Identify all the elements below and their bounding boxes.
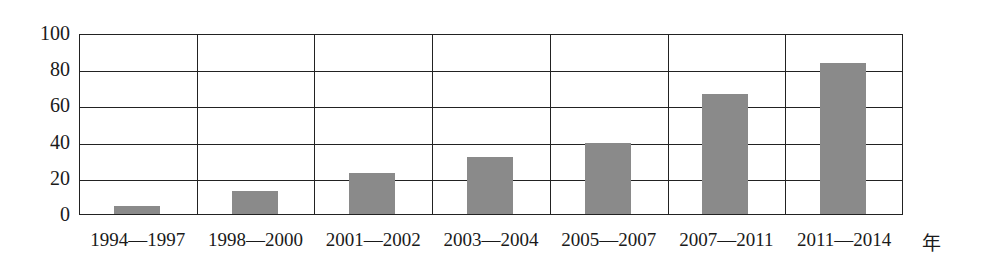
v-gridline — [314, 35, 315, 214]
v-gridline — [432, 35, 433, 214]
bar — [467, 157, 513, 214]
v-gridline — [197, 35, 198, 214]
h-gridline — [80, 107, 902, 108]
v-gridline — [550, 35, 551, 214]
h-gridline — [80, 71, 902, 72]
x-tick-label: 1994—1997 — [79, 229, 197, 251]
bar — [585, 143, 631, 214]
x-tick-label: 2005—2007 — [550, 229, 668, 251]
x-tick-label: 2001—2002 — [314, 229, 432, 251]
v-gridline — [785, 35, 786, 214]
y-tick-label: 20 — [10, 168, 70, 188]
bar — [349, 173, 395, 214]
plot-area — [79, 34, 903, 215]
y-tick-label: 40 — [10, 132, 70, 152]
bar — [114, 206, 160, 214]
y-tick-label: 0 — [10, 204, 70, 224]
h-gridline — [80, 144, 902, 145]
bar — [702, 94, 748, 214]
x-tick-label: 2007—2011 — [667, 229, 785, 251]
bar — [232, 191, 278, 214]
v-gridline — [668, 35, 669, 214]
bar-chart: 020406080100 1994—19971998—20002001—2002… — [0, 0, 982, 257]
y-tick-label: 100 — [10, 23, 70, 43]
x-axis-unit-label: 年 — [922, 228, 941, 255]
x-tick-label: 1998—2000 — [197, 229, 315, 251]
y-tick-label: 80 — [10, 59, 70, 79]
bar — [820, 63, 866, 214]
x-tick-label: 2011—2014 — [785, 229, 903, 251]
y-tick-label: 60 — [10, 95, 70, 115]
x-tick-label: 2003—2004 — [432, 229, 550, 251]
